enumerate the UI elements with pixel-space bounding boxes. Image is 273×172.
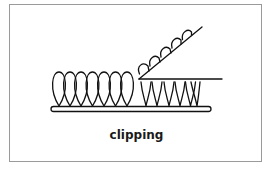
uncut-loops (53, 72, 134, 106)
diagram-caption: clipping (0, 128, 273, 142)
backing-strip (51, 107, 211, 112)
clipping-diagram (0, 0, 273, 172)
clipped-stubs (141, 82, 200, 106)
removed-loop-tops (139, 30, 192, 74)
